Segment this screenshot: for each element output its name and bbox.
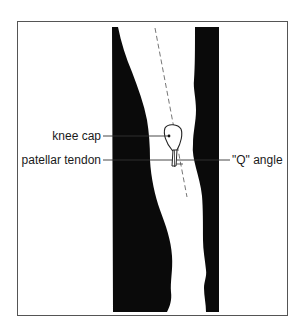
patellar-tendon-label: patellar tendon bbox=[22, 153, 101, 167]
knee-q-angle-diagram: knee cap patellar tendon "Q" angle bbox=[0, 0, 301, 329]
knee-cap-center-dot bbox=[168, 135, 171, 138]
knee-cap-label: knee cap bbox=[52, 129, 101, 143]
q-angle-label: "Q" angle bbox=[232, 153, 283, 167]
